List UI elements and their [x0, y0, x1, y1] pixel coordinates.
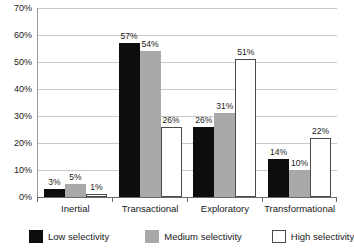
bar-value-label: 22%: [312, 127, 329, 136]
x-axis-tick-1: [112, 197, 113, 202]
bar-wrap-high: 26%: [161, 8, 182, 197]
bar-transformational-low: [268, 159, 289, 197]
legend-swatch-icon: [145, 230, 159, 243]
bar-inertial-medium: [65, 184, 86, 197]
bar-value-label: 57%: [121, 32, 138, 41]
bar-wrap-high: 1%: [86, 8, 107, 197]
bar-group-transformational: 14% 10% 22%: [262, 8, 337, 197]
bar-value-label: 10%: [291, 159, 308, 168]
y-tick-0: 0%: [0, 193, 32, 202]
bar-value-label: 31%: [216, 102, 233, 111]
x-axis-tick-0: [37, 197, 38, 202]
bar-value-label: 14%: [270, 148, 287, 157]
bar-wrap-medium: 10%: [289, 8, 310, 197]
legend-item-low-selectivity: Low selectivity: [29, 230, 109, 243]
bar-inertial-high: [86, 194, 107, 197]
x-axis-tick-2: [187, 197, 188, 202]
bar-group-exploratory: 26% 31% 51%: [188, 8, 263, 197]
x-category-inertial: Inertial: [38, 203, 113, 217]
bar-value-label: 5%: [69, 173, 81, 182]
bar-wrap-medium: 54%: [140, 8, 161, 197]
y-tick-70: 70%: [0, 4, 32, 13]
bar-wrap-low: 26%: [193, 8, 214, 197]
y-tick-40: 40%: [0, 85, 32, 94]
chart-title: [0, 0, 343, 4]
legend-label: High selectivity: [291, 231, 354, 242]
bar-group-inertial: 3% 5% 1%: [38, 8, 113, 197]
bar-transactional-high: [161, 127, 182, 197]
x-axis-tick-4: [336, 197, 337, 202]
y-tick-60: 60%: [0, 31, 32, 40]
x-category-transformational: Transformational: [262, 203, 337, 217]
y-tick-20: 20%: [0, 139, 32, 148]
bar-transactional-low: [119, 43, 140, 197]
x-axis-category-labels: Inertial Transactional Exploratory Trans…: [38, 203, 337, 217]
bar-group-transactional: 57% 54% 26%: [113, 8, 188, 197]
legend-label: Low selectivity: [48, 231, 109, 242]
bar-wrap-low: 14%: [268, 8, 289, 197]
bar-groups: 3% 5% 1% 57% 54% 26%: [38, 8, 337, 197]
y-tick-10: 10%: [0, 166, 32, 175]
legend-label: Medium selectivity: [164, 231, 242, 242]
x-axis-tick-3: [262, 197, 263, 202]
bar-exploratory-medium: [214, 113, 235, 197]
bar-transformational-high: [310, 138, 331, 197]
bar-inertial-low: [44, 189, 65, 197]
bar-transactional-medium: [140, 51, 161, 197]
bar-exploratory-low: [193, 127, 214, 197]
bar-wrap-low: 3%: [44, 8, 65, 197]
chart-legend: Low selectivity Medium selectivity High …: [0, 228, 343, 244]
bar-value-label: 1%: [90, 183, 102, 192]
bar-value-label: 54%: [142, 40, 159, 49]
bar-value-label: 51%: [237, 48, 254, 57]
bar-wrap-medium: 5%: [65, 8, 86, 197]
y-tick-50: 50%: [0, 58, 32, 67]
bar-value-label: 26%: [163, 116, 180, 125]
bar-transformational-medium: [289, 170, 310, 197]
legend-item-high-selectivity: High selectivity: [272, 230, 354, 243]
legend-swatch-icon: [29, 230, 43, 243]
x-category-exploratory: Exploratory: [188, 203, 263, 217]
bar-value-label: 3%: [48, 178, 60, 187]
x-category-transactional: Transactional: [113, 203, 188, 217]
bar-wrap-medium: 31%: [214, 8, 235, 197]
bar-wrap-high: 51%: [235, 8, 256, 197]
legend-swatch-icon: [272, 230, 286, 243]
y-tick-30: 30%: [0, 112, 32, 121]
bar-wrap-high: 22%: [310, 8, 331, 197]
bar-value-label: 26%: [195, 116, 212, 125]
bar-wrap-low: 57%: [119, 8, 140, 197]
bar-exploratory-high: [235, 59, 256, 197]
legend-item-medium-selectivity: Medium selectivity: [145, 230, 242, 243]
